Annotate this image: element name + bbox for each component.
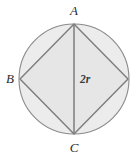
geometry-figure: A B C 2r xyxy=(0,0,137,159)
vertex-label-A: A xyxy=(69,3,78,18)
vertex-label-C: C xyxy=(70,140,79,155)
vertex-label-B: B xyxy=(6,71,14,86)
figure-canvas: A B C 2r xyxy=(0,0,137,159)
diameter-label-2r: 2r xyxy=(79,73,91,85)
